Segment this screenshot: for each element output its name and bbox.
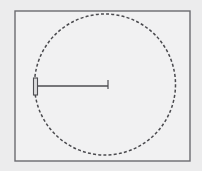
diagram-canvas	[0, 0, 202, 171]
left-end-bar-marker	[34, 78, 38, 95]
geometry-diagram	[0, 0, 202, 171]
